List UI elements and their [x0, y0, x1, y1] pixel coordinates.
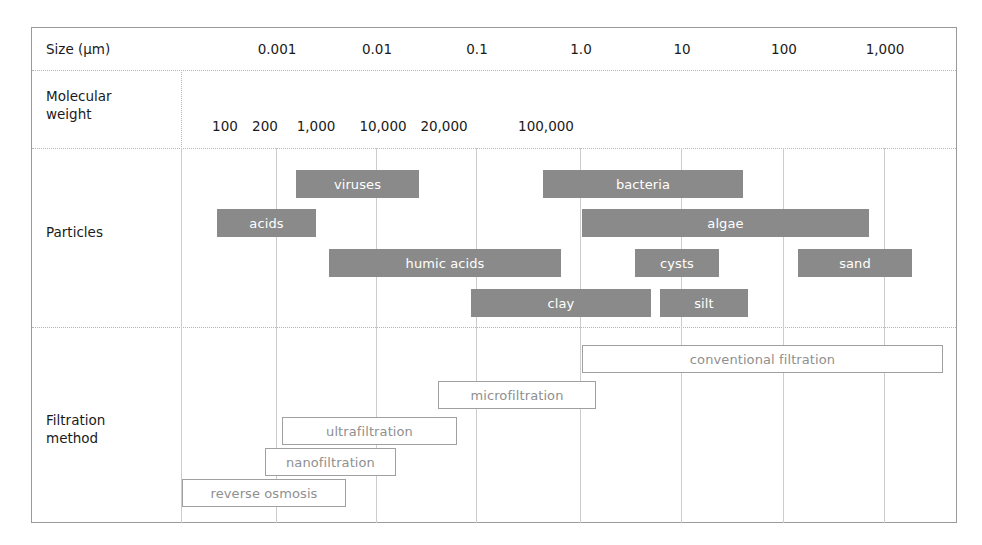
- row-separator-size-molecular: [32, 70, 956, 71]
- particle-bar-label: cysts: [660, 256, 694, 271]
- particle-bar-label: clay: [548, 296, 575, 311]
- filtration-bar-reverse-osmosis: reverse osmosis: [182, 479, 346, 507]
- gridline-7: [884, 148, 885, 523]
- particle-bar-label: algae: [707, 216, 743, 231]
- particle-bar-bacteria: bacteria: [543, 170, 743, 198]
- mw-tick-5: 100,000: [518, 118, 574, 134]
- particle-bar-label: viruses: [334, 177, 381, 192]
- particle-bar-label: sand: [839, 256, 871, 271]
- particle-bar-label: humic acids: [406, 256, 485, 271]
- gridline-0: [181, 148, 182, 523]
- filtration-bar-conventional-filtration: conventional filtration: [582, 345, 943, 373]
- mw-tick-3: 10,000: [359, 118, 406, 134]
- filtration-bar-label: reverse osmosis: [211, 486, 318, 501]
- filtration-bar-ultrafiltration: ultrafiltration: [282, 417, 457, 445]
- particle-bar-viruses: viruses: [296, 170, 419, 198]
- row-label-molecular-weight: Molecular weight: [46, 88, 112, 124]
- filtration-bar-microfiltration: microfiltration: [438, 381, 596, 409]
- mw-tick-0: 100: [212, 118, 238, 134]
- filtration-size-chart: Size (µm) 0.001 0.01 0.1 1.0 10 100 1,00…: [31, 27, 957, 523]
- mw-tick-4: 20,000: [420, 118, 467, 134]
- row-separator-molecular-particles: [32, 148, 956, 149]
- particle-bar-algae: algae: [582, 209, 869, 237]
- row-label-size: Size (µm): [46, 41, 110, 59]
- size-tick-1: 0.01: [362, 41, 392, 57]
- particle-bar-silt: silt: [660, 289, 748, 317]
- particle-bar-acids: acids: [217, 209, 316, 237]
- filtration-bar-label: conventional filtration: [690, 352, 835, 367]
- particle-bar-cysts: cysts: [635, 249, 719, 277]
- particle-bar-humic-acids: humic acids: [329, 249, 561, 277]
- gridline-3: [476, 148, 477, 523]
- row-label-filtration-method: Filtration method: [46, 412, 105, 448]
- gridline-4: [580, 148, 581, 523]
- particle-bar-label: bacteria: [616, 177, 670, 192]
- mw-tick-2: 1,000: [297, 118, 336, 134]
- filtration-bar-label: nanofiltration: [286, 455, 375, 470]
- gridline-5: [681, 148, 682, 523]
- row-separator-particles-filtration: [32, 327, 956, 328]
- mw-tick-1: 200: [252, 118, 278, 134]
- particle-bar-sand: sand: [798, 249, 912, 277]
- particle-bar-clay: clay: [471, 289, 651, 317]
- row-label-particles: Particles: [46, 224, 103, 242]
- size-tick-5: 100: [771, 41, 797, 57]
- size-tick-0: 0.001: [258, 41, 297, 57]
- particle-bar-label: silt: [694, 296, 714, 311]
- filtration-bar-nanofiltration: nanofiltration: [265, 448, 396, 476]
- size-tick-2: 0.1: [466, 41, 487, 57]
- size-tick-6: 1,000: [866, 41, 905, 57]
- filtration-bar-label: ultrafiltration: [326, 424, 413, 439]
- gridline-6: [783, 148, 784, 523]
- filtration-bar-label: microfiltration: [470, 388, 563, 403]
- size-tick-3: 1.0: [570, 41, 591, 57]
- particle-bar-label: acids: [249, 216, 283, 231]
- size-tick-4: 10: [673, 41, 690, 57]
